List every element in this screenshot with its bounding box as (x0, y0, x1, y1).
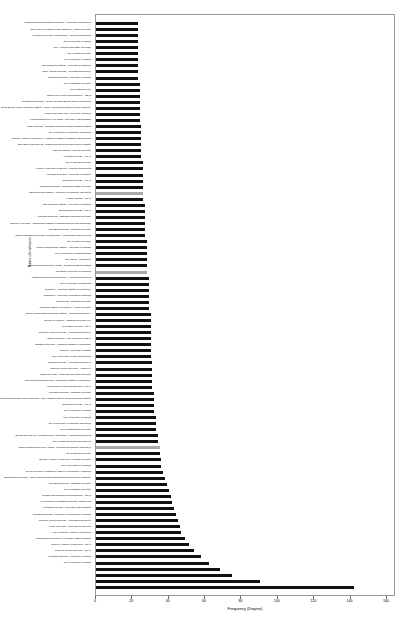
bar (96, 525, 180, 528)
bar-fill (96, 167, 143, 170)
y-axis-tick-label: The L University of Toronto (63, 415, 91, 418)
bar-fill (96, 277, 149, 280)
y-axis-tick-label: Microsoft Research - Shanghai Jiao Tong … (38, 215, 91, 218)
y-axis-tick-label: ISN Research Institute - University of M… (43, 203, 91, 206)
bar (96, 452, 160, 455)
bar (96, 240, 147, 243)
y-axis-tick-label: Microsoft Research - University of Toron… (48, 76, 91, 79)
y-axis-tick-label: CUI C University of Michigan (61, 464, 91, 467)
bar (96, 519, 178, 522)
bar (96, 149, 141, 152)
bar-fill (96, 40, 138, 43)
bar-fill (96, 495, 171, 498)
bar-fill (96, 289, 149, 292)
bar-fill (96, 580, 260, 583)
bar-fill (96, 204, 145, 207)
bar-fill (96, 240, 147, 243)
bar (96, 555, 201, 558)
y-axis-tick-label: Cle C University of Oakhill (64, 57, 91, 60)
bar-fill (96, 343, 151, 346)
y-axis-tick-label: Microsoft Research - University of Techn… (33, 512, 91, 515)
bar-fill (96, 404, 154, 407)
y-axis-tick-label: Virginia Institute - The C (66, 197, 91, 200)
bar-fill (96, 525, 180, 528)
y-axis-tick-label: CUI C Northumbria University (60, 427, 91, 430)
bar (96, 361, 152, 364)
bar (96, 404, 154, 407)
bar-fill (96, 210, 145, 213)
bar-fill (96, 113, 140, 116)
y-axis-tick-label: Aalborg University Laur - University of … (44, 112, 91, 115)
bar-fill (96, 458, 161, 461)
bar-fill (96, 125, 141, 128)
bar-fill (96, 355, 151, 358)
bar-fill (96, 155, 141, 158)
bar (96, 489, 169, 492)
bar-fill (96, 198, 143, 201)
y-axis-tick-label: Pacific L University of Science Academic… (36, 166, 91, 169)
bar-fill (96, 465, 161, 468)
bar-fill (96, 489, 169, 492)
bar (96, 119, 140, 122)
y-axis-tick-label: Charles Inst - Tsinghua University (56, 300, 91, 303)
x-tick-label: 80 (238, 599, 242, 603)
y-axis-tick-label: Pacific Technological Institute - Univer… (37, 245, 91, 248)
bar (96, 58, 138, 61)
y-axis-tick-label: Southwest University - Texas A&M New Ele… (22, 100, 91, 103)
bar-fill (96, 77, 138, 80)
bar (96, 198, 143, 201)
bar (96, 101, 140, 104)
y-axis-tick-label: CUI C Tsinghua University (64, 488, 91, 491)
y-axis-tick-label: Fluid Engagement of XRI Gmbh - Universit… (30, 118, 91, 121)
bar (96, 580, 260, 583)
y-axis-tick-label: Energy Technologies Research Institute -… (26, 312, 91, 315)
bar (96, 180, 143, 183)
y-axis-tick-label: College of Medicine - Stanford Universit… (44, 318, 91, 321)
bar (96, 70, 138, 73)
y-axis-tick-label: CUI C Milton University (67, 239, 91, 242)
y-axis-tick-label: Chinese Academy of Sciences - Huagzhen I… (12, 136, 91, 139)
bar (96, 174, 143, 177)
bar (96, 83, 140, 86)
bar-fill (96, 228, 145, 231)
y-axis-tick-label: Ohio State Materials Lab - Management De… (18, 142, 91, 145)
bar-fill (96, 543, 189, 546)
bar (96, 537, 185, 540)
bar-fill (96, 89, 140, 92)
bar (96, 167, 143, 170)
bar (96, 289, 149, 292)
bar (96, 155, 141, 158)
bar (96, 319, 151, 322)
bar-fill (96, 440, 158, 443)
bar-fill (96, 301, 149, 304)
y-axis-tick-label: The C University of California, San Dieg… (49, 130, 91, 133)
bar (96, 307, 149, 310)
bar-fill (96, 101, 140, 104)
y-axis-tick-label: The L Milton University (67, 51, 91, 54)
y-axis-tick-label: Nanyang Technological Univ - Southwest I… (25, 379, 91, 382)
y-axis-tick-label: Polytechnic of Milan - The C (62, 324, 91, 327)
y-axis-tick-label: Zhongguang University - Tokyo Inst Chong… (4, 476, 91, 479)
bar-fill (96, 349, 151, 352)
bar (96, 355, 151, 358)
y-axis-tick-label: The A Pennsylvania State University (54, 45, 91, 48)
bar-fill (96, 428, 156, 431)
bar (96, 471, 163, 474)
bar-fill (96, 307, 149, 310)
y-axis-tick-label: Berkeley University - Tata Electric Inst… (11, 221, 91, 224)
bar-fill (96, 319, 151, 322)
bar-fill (96, 22, 138, 25)
y-axis-tick-label: The C University of Oakhill (63, 39, 91, 42)
y-axis-tick-label: Microsoft Research - Washington State Un… (40, 185, 91, 188)
bar (96, 398, 154, 401)
bar (96, 52, 138, 55)
bar-fill (96, 398, 154, 401)
bar (96, 349, 151, 352)
bar-fill (96, 337, 151, 340)
y-axis-tick-label: Tsinghua University - California Institu… (35, 342, 91, 345)
y-axis-tick-label: CUI C University of Tsinghua Academy of … (26, 470, 91, 473)
bar-fill (96, 471, 163, 474)
bar-fill (96, 452, 160, 455)
bar (96, 513, 176, 516)
bar (96, 440, 158, 443)
